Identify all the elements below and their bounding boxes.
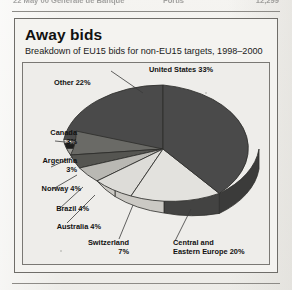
pie-label-brazil: Brazil 4% [23,205,89,214]
pie-label-canada: Canada 3% [23,129,77,146]
page-root: 22 May 00 Générale de Banque Fortis 12,2… [0,0,292,290]
scan-speck [60,250,62,252]
pie-label-other: Other 22% [54,79,91,88]
pie-label-argentina: Argentina 3% [23,157,77,174]
pie-label-norway: Norway 4% [23,185,81,194]
pie-label-united-states: United States 33% [149,66,213,75]
table-row-target: Fortis [163,0,184,5]
pie-top-faces [64,85,249,201]
header-divider [12,11,280,12]
pie-label-switzerland: Switzerland 7% [67,239,129,256]
cut-off-table-row: 22 May 00 Générale de Banque Fortis 12,2… [0,0,292,8]
pie-label-australia: Australia 4% [23,223,101,232]
footer-divider [12,283,280,284]
plot-area: United States 33% Other 22% Canada 3% Ar… [22,62,270,265]
figure-title: Away bids [25,26,102,44]
scan-speck [205,92,207,94]
table-row-date: 22 May 00 Générale de Banque [13,0,124,5]
figure-subtitle: Breakdown of EU15 bids for non-EU15 targ… [25,46,263,56]
table-row-value: 12,299 [256,0,279,5]
pie-label-central-eastern-europe: Central and Eastern Europe 20% [173,239,244,256]
